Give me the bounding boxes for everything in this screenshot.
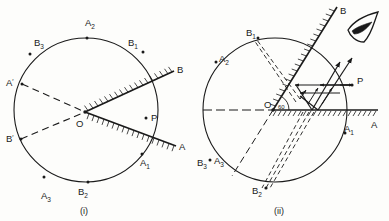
labels-panel-i: A2 B3 B1 A′ B′ O P B A A1 B2 A3 <box>6 17 186 203</box>
label-b3-i: B3 <box>34 37 44 50</box>
label-b1-i: B1 <box>128 37 138 50</box>
label-a-prime-i: A′ <box>6 77 14 88</box>
label-mirror-a-i: A <box>179 141 186 152</box>
mirror-b-hatching-i <box>85 67 173 111</box>
figure-canvas: A2 B3 B1 A′ B′ O P B A A1 B2 A3 (i) <box>0 0 389 221</box>
mirror-a-hatching-i <box>87 114 174 152</box>
label-mirror-b-i: B <box>177 64 183 75</box>
label-b3-ii: B3 <box>197 157 207 170</box>
point-b3-i <box>29 53 32 56</box>
point-a3-i <box>43 176 46 179</box>
mirror-b-i <box>85 71 174 112</box>
panel-ii: 60 <box>197 5 378 216</box>
label-o-ii: O <box>264 99 271 110</box>
point-a2-i <box>86 37 89 40</box>
virtual-ray-b2-c-ii <box>270 112 314 188</box>
point-p-i <box>145 117 148 120</box>
panel-i: A2 B3 B1 A′ B′ O P B A A1 B2 A3 (i) <box>6 17 186 216</box>
point-b2-i <box>87 181 90 184</box>
virtual-ray-b2-a-ii <box>262 112 303 188</box>
observer-eye-icon <box>348 12 378 42</box>
point-a-prime-i <box>21 83 24 86</box>
optics-figure: A2 B3 B1 A′ B′ O P B A A1 B2 A3 (i) <box>0 0 389 221</box>
point-o-ii <box>271 108 274 111</box>
label-b-prime-i: B′ <box>6 133 14 144</box>
label-mirror-a-ii: A <box>371 119 378 130</box>
circle-i <box>14 38 158 182</box>
ray-a-to-eye-1-ii <box>312 62 340 110</box>
label-a3-ii: A3 <box>214 155 224 168</box>
caption-ii: (ii) <box>274 206 284 216</box>
label-b2-i: B2 <box>78 186 88 199</box>
caption-i: (i) <box>80 206 88 216</box>
point-b2-ii <box>264 186 267 189</box>
point-b3-ii <box>209 159 212 162</box>
virtual-ray-b1-a-ii <box>254 40 296 102</box>
point-o-i <box>83 110 86 113</box>
label-a2-ii: A2 <box>219 53 229 66</box>
label-a3-i: A3 <box>41 190 51 203</box>
label-o-i: O <box>76 118 83 129</box>
label-p-ii: P <box>357 75 363 86</box>
mirror-b-extension-ii <box>232 110 273 176</box>
point-a2-ii <box>215 61 218 64</box>
label-b1-ii: B1 <box>246 27 256 40</box>
label-p-i: P <box>151 112 157 123</box>
angle-label-ii: 60 <box>278 104 285 110</box>
label-b2-ii: B2 <box>252 185 262 198</box>
point-a1-i <box>141 153 144 156</box>
label-mirror-b-ii: B <box>340 5 346 16</box>
point-b1-i <box>142 51 145 54</box>
point-b1-ii <box>257 37 260 40</box>
mirror-a-hatching-ii <box>273 111 376 116</box>
mirror-a-i <box>85 112 176 146</box>
labels-panel-ii: B1 A2 B P O A A1 B3 A3 B2 <box>197 5 378 198</box>
label-a1-i: A1 <box>140 157 150 170</box>
label-a1-ii: A1 <box>344 123 354 136</box>
construction-line-a-prime <box>22 84 85 112</box>
label-a2-i: A2 <box>85 17 95 30</box>
point-p-ii <box>350 83 353 86</box>
point-b-prime-i <box>20 138 23 141</box>
